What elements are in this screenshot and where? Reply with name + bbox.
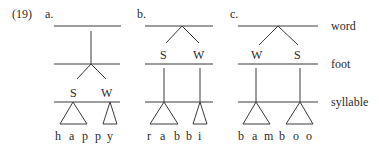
segment: b xyxy=(186,129,192,143)
segment: o xyxy=(293,129,299,143)
segment: b xyxy=(174,129,180,143)
segment: i xyxy=(198,129,202,143)
segment: b xyxy=(238,129,244,143)
tree-c: c. W S b a m b o o xyxy=(230,7,318,143)
syllable-triangle-2 xyxy=(193,102,207,124)
tier-label-word: word xyxy=(331,19,356,33)
segment: a xyxy=(160,129,166,143)
word-branch-weak xyxy=(259,26,278,45)
tree-c-label: c. xyxy=(230,7,238,21)
foot-label-strong: S xyxy=(160,48,167,62)
foot-label-weak: W xyxy=(193,48,205,62)
tree-b-label: b. xyxy=(137,7,146,21)
tree-b: b. S W r a b b i xyxy=(137,7,213,143)
prosodic-structure-diagram: (19) a. S W h a p p y b. S W r a b b xyxy=(0,0,379,150)
segment: b xyxy=(279,129,285,143)
example-number: (19) xyxy=(12,7,32,21)
word-branch-strong xyxy=(166,26,182,43)
foot-label-weak: W xyxy=(251,48,263,62)
foot-branch-weak xyxy=(91,64,106,79)
segment: p xyxy=(95,129,101,143)
syllable-triangle-1 xyxy=(243,102,270,124)
segment: y xyxy=(107,129,113,143)
syllable-triangle-1 xyxy=(150,102,178,124)
tree-a: a. S W h a p p y xyxy=(45,7,121,143)
segment: o xyxy=(306,129,312,143)
syllable-triangle-2 xyxy=(103,102,117,124)
segment: m xyxy=(264,129,274,143)
tree-a-label: a. xyxy=(45,7,53,21)
segment: a xyxy=(69,129,75,143)
foot-label-strong: S xyxy=(294,48,301,62)
segment: a xyxy=(252,129,258,143)
segment: p xyxy=(82,129,88,143)
tier-label-foot: foot xyxy=(331,57,351,71)
word-branch-weak xyxy=(182,26,199,43)
foot-branch-strong xyxy=(77,64,91,79)
syllable-triangle-1 xyxy=(60,102,87,124)
segment: r xyxy=(147,129,151,143)
foot-label-weak: W xyxy=(101,86,113,100)
foot-label-strong: S xyxy=(70,86,77,100)
word-branch-strong xyxy=(278,26,298,45)
segment: h xyxy=(55,129,61,143)
syllable-triangle-2 xyxy=(286,102,313,124)
tier-label-syllable: syllable xyxy=(331,95,368,109)
